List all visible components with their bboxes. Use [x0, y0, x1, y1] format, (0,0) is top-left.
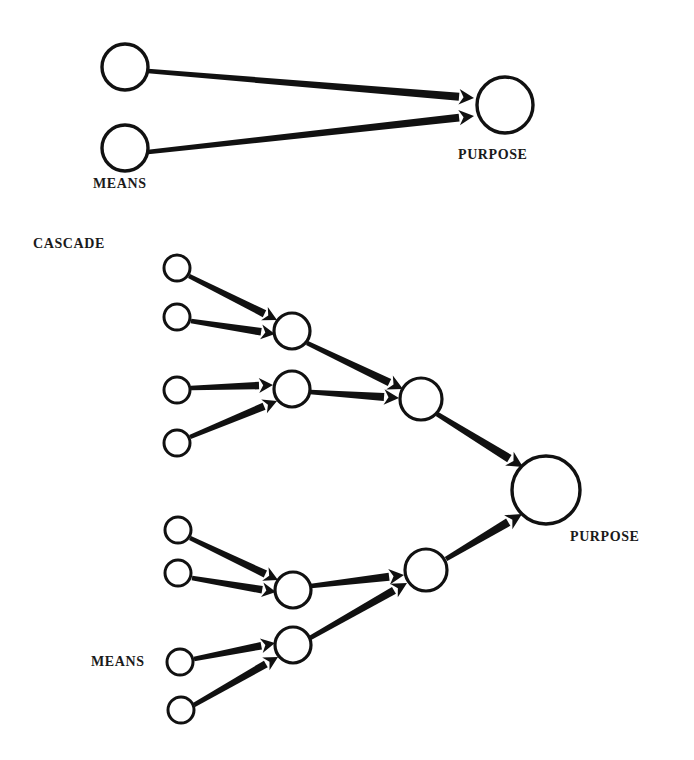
node-intermediate-node-4[interactable] [275, 627, 311, 663]
edge-shaft [191, 319, 262, 336]
edge-c-a1-to-c-b1 [188, 274, 277, 320]
edge-shaft [310, 390, 384, 401]
edge-shaft [148, 69, 460, 101]
cascade-title-label: CASCADE [33, 236, 105, 251]
node-means-node-7[interactable] [167, 649, 193, 675]
node-means-node-3[interactable] [164, 377, 190, 403]
edge-c-a8-to-c-b4 [193, 657, 278, 707]
node-purpose-node[interactable] [512, 456, 580, 524]
arrowhead-icon [259, 378, 273, 393]
node-intermediate-node-1[interactable] [274, 313, 310, 349]
means-purpose-figure: MEANSPURPOSECASCADEMEANSPURPOSE [0, 0, 694, 760]
edge-c-b4-to-c-c2 [309, 583, 407, 640]
cascade-means-label: MEANS [91, 654, 145, 669]
panel-simple-means-purpose [148, 69, 474, 155]
arrowhead-icon [458, 110, 474, 125]
node-means-node-4[interactable] [164, 430, 190, 456]
node-merge-node-lower[interactable] [405, 549, 447, 591]
edge-c-a6-to-c-b3 [192, 576, 276, 597]
edge-shaft [445, 519, 511, 562]
edge-shaft [194, 642, 262, 661]
arrowhead-icon [388, 569, 404, 584]
edge-c-a2-to-c-b1 [191, 319, 275, 339]
edge-shaft [188, 274, 266, 317]
edge-s-m2-to-s-p [148, 110, 474, 154]
arrowhead-icon [260, 638, 275, 653]
node-means-node-5[interactable] [165, 517, 191, 543]
edge-s-m1-to-s-p [148, 69, 474, 105]
node-means-node-2[interactable] [102, 125, 148, 171]
edge-shaft [311, 573, 390, 588]
cascade-purpose-label: PURPOSE [570, 529, 640, 544]
node-intermediate-node-3[interactable] [275, 572, 311, 608]
panel-simple-means-purpose-labels: MEANSPURPOSE [93, 147, 528, 191]
edge-c-b3-to-c-c2 [311, 569, 404, 588]
node-means-node-8[interactable] [168, 697, 194, 723]
arrowhead-icon [384, 389, 399, 405]
edge-c-c1-to-c-p [436, 412, 523, 467]
labels-layer: MEANSPURPOSECASCADEMEANSPURPOSE [33, 147, 640, 669]
node-merge-node-upper[interactable] [400, 378, 442, 420]
node-means-node-1[interactable] [164, 255, 190, 281]
simple-means-label: MEANS [93, 176, 147, 191]
edge-shaft [189, 536, 267, 577]
edge-shaft [191, 382, 259, 390]
edge-c-b2-to-c-c1 [310, 389, 399, 405]
edge-c-a3-to-c-b2 [191, 378, 273, 393]
arrowhead-icon [458, 89, 474, 104]
panel-cascade-means-purpose-labels: CASCADEMEANSPURPOSE [33, 236, 640, 669]
edge-shaft [148, 114, 460, 155]
node-means-node-1[interactable] [102, 44, 148, 90]
edge-c-c2-to-c-p [445, 514, 522, 561]
edge-shaft [189, 403, 265, 439]
edge-shaft [192, 576, 263, 594]
edge-c-a4-to-c-b2 [189, 400, 277, 440]
edge-shaft [306, 341, 391, 386]
node-intermediate-node-2[interactable] [274, 371, 310, 407]
simple-purpose-label: PURPOSE [458, 147, 528, 162]
node-purpose-node[interactable] [477, 77, 533, 133]
node-means-node-2[interactable] [164, 304, 190, 330]
edge-shaft [436, 412, 512, 462]
panel-cascade-means-purpose [188, 274, 523, 707]
edge-shaft [309, 587, 396, 640]
diagram-canvas: MEANSPURPOSECASCADEMEANSPURPOSE [0, 0, 694, 760]
edge-shaft [193, 661, 268, 707]
edge-c-b1-to-c-c1 [306, 341, 403, 390]
edge-c-a5-to-c-b3 [189, 536, 278, 581]
edges-layer [148, 69, 523, 707]
node-means-node-6[interactable] [165, 560, 191, 586]
